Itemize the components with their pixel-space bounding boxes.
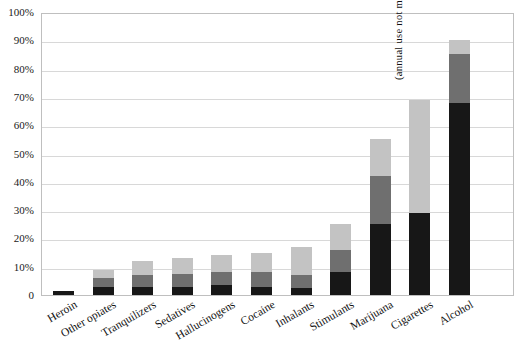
- y-axis-tick-40: 40%: [0, 176, 34, 188]
- y-axis-tick-20: 20%: [0, 232, 34, 244]
- x-axis-category-labels: HeroinOther opiatesTranquilizersSedative…: [0, 296, 520, 351]
- bar-segment-past-month-use: [291, 288, 312, 295]
- bar-segment-lifetime-use: [93, 270, 114, 278]
- bar-segment-annual-use: [132, 275, 153, 286]
- bar-segment-past-month-use: [132, 287, 153, 295]
- bar-stimulants: [330, 224, 351, 295]
- bar-segment-annual-use: [370, 176, 391, 224]
- bar-segment-past-month-use: [172, 287, 193, 295]
- y-axis-tick-90: 90%: [0, 34, 34, 46]
- plot-area: (annual use not measured): [41, 13, 514, 296]
- gridline-70: [42, 99, 513, 100]
- bar-segment-past-month-use: [53, 291, 74, 295]
- y-axis-tick-70: 70%: [0, 91, 34, 103]
- bar-segment-lifetime-use: [370, 139, 391, 176]
- bar-cocaine: [251, 253, 272, 295]
- gridline-30: [42, 212, 513, 213]
- y-axis-tick-10: 10%: [0, 261, 34, 273]
- bar-segment-past-month-use: [211, 285, 232, 295]
- bar-segment-annual-use: [251, 272, 272, 286]
- bar-segment-lifetime-use: [291, 247, 312, 275]
- bar-segment-lifetime-use: [132, 261, 153, 275]
- bar-heroin: [53, 291, 74, 295]
- bar-segment-past-month-use: [370, 224, 391, 295]
- bar-tranquilizers: [132, 261, 153, 295]
- gridline-90: [42, 42, 513, 43]
- gridline-50: [42, 156, 513, 157]
- bar-segment-annual-use: [330, 250, 351, 273]
- gridline-60: [42, 127, 513, 128]
- bar-segment-lifetime-use: [409, 100, 430, 213]
- bar-segment-lifetime-use: [172, 258, 193, 274]
- bar-segment-annual-use: [211, 272, 232, 285]
- bar-segment-annual-use: [172, 274, 193, 287]
- gridline-80: [42, 71, 513, 72]
- bar-segment-annual-use: [291, 275, 312, 288]
- annual-use-not-measured-annotation: (annual use not measured): [393, 0, 404, 80]
- bar-segment-past-month-use: [330, 272, 351, 295]
- bar-inhalants: [291, 247, 312, 295]
- bar-marijuana: [370, 139, 391, 295]
- bar-other-opiates: [93, 270, 114, 295]
- bar-segment-past-month-use: [409, 213, 430, 295]
- bar-hallucinogens: [211, 255, 232, 295]
- bar-segment-annual-use: [449, 54, 470, 102]
- bar-segment-lifetime-use: [251, 253, 272, 273]
- bar-segment-past-month-use: [93, 287, 114, 295]
- gridline-40: [42, 184, 513, 185]
- bar-segment-annual-use: [93, 278, 114, 286]
- bar-segment-lifetime-use: [449, 40, 470, 54]
- bar-segment-past-month-use: [449, 103, 470, 295]
- y-axis-tick-30: 30%: [0, 204, 34, 216]
- gridline-20: [42, 240, 513, 241]
- bar-segment-lifetime-use: [330, 224, 351, 249]
- y-axis-tick-60: 60%: [0, 119, 34, 131]
- bar-segment-lifetime-use: [211, 255, 232, 272]
- bar-segment-past-month-use: [251, 287, 272, 295]
- bar-sedatives: [172, 258, 193, 295]
- chart-root: 010%20%30%40%50%60%70%80%90%100% (annual…: [0, 0, 520, 351]
- y-axis-tick-80: 80%: [0, 63, 34, 75]
- bar-alcohol: [449, 40, 470, 295]
- y-axis-tick-50: 50%: [0, 148, 34, 160]
- bar-cigarettes: [409, 100, 430, 295]
- y-axis-tick-100: 100%: [0, 6, 34, 18]
